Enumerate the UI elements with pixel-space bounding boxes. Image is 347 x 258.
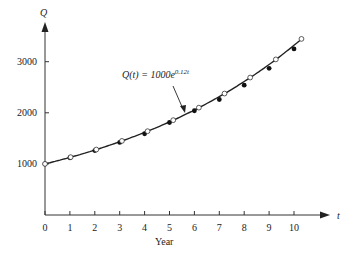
observed-point xyxy=(267,66,272,71)
model-point xyxy=(196,105,201,110)
x-tick-label: 0 xyxy=(43,222,48,233)
model-point xyxy=(248,75,253,80)
y-tick-label: 1000 xyxy=(17,158,37,169)
model-point xyxy=(43,162,48,167)
x-tick-label: 3 xyxy=(117,222,122,233)
model-point xyxy=(299,37,304,42)
y-tick-label: 2000 xyxy=(17,107,37,118)
x-axis-label: Year xyxy=(155,236,173,247)
x-tick-label: 8 xyxy=(242,222,247,233)
y-axis-label: Q xyxy=(40,7,48,18)
observed-point xyxy=(192,108,197,113)
x-tick-label: 1 xyxy=(67,222,72,233)
model-point xyxy=(171,118,176,123)
model-point xyxy=(273,57,278,62)
observed-point xyxy=(242,83,247,88)
observed-point xyxy=(292,47,297,52)
observed-point xyxy=(217,97,222,102)
x-tick-label: 2 xyxy=(92,222,97,233)
y-tick-label: 3000 xyxy=(17,56,37,67)
model-point xyxy=(222,91,227,96)
model-curve xyxy=(45,39,302,164)
curve-annotation: Q(t) = 1000e0.12t xyxy=(122,68,190,81)
x-tick-label: 4 xyxy=(142,222,147,233)
x-tick-label: 7 xyxy=(217,222,222,233)
x-axis-var: t xyxy=(337,210,340,221)
model-point xyxy=(120,139,125,144)
model-point xyxy=(68,155,73,160)
model-point xyxy=(94,147,99,152)
annotation-pointer xyxy=(173,86,183,109)
x-axis-arrow-icon xyxy=(320,212,330,219)
x-tick-label: 9 xyxy=(267,222,272,233)
chart: tQ012345678910100020003000Q(t) = 1000e0.… xyxy=(0,0,347,258)
model-point xyxy=(145,129,150,134)
x-tick-label: 10 xyxy=(289,222,299,233)
x-tick-label: 6 xyxy=(192,222,197,233)
annotation-arrow-icon xyxy=(180,105,186,113)
x-tick-label: 5 xyxy=(167,222,172,233)
y-axis-arrow-icon xyxy=(42,22,49,32)
